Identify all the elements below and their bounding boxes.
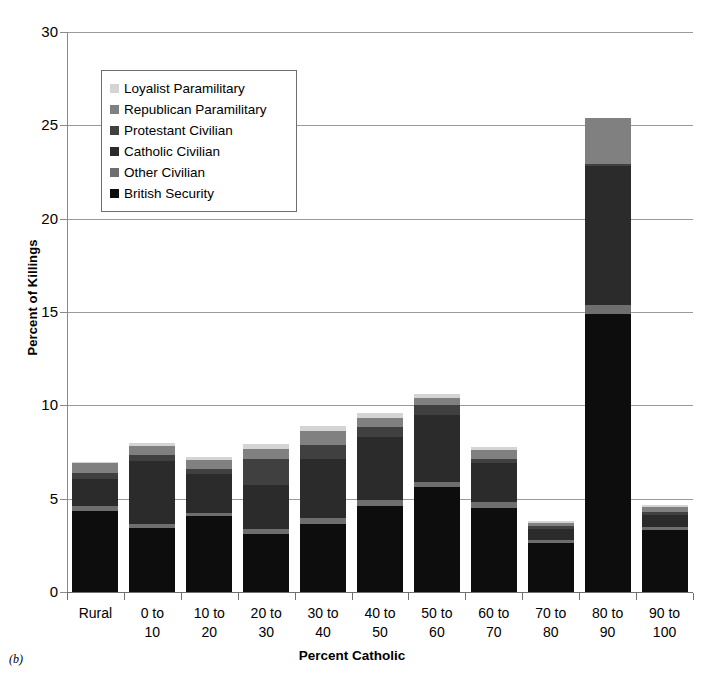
bar-segment[interactable] bbox=[300, 431, 346, 445]
x-tick-label: 0 to10 bbox=[124, 604, 181, 642]
bar-segment[interactable] bbox=[72, 506, 118, 511]
bar-group bbox=[585, 32, 631, 592]
bar-segment[interactable] bbox=[528, 540, 574, 543]
stacked-bar[interactable] bbox=[186, 457, 232, 592]
bar-segment[interactable] bbox=[243, 485, 289, 529]
legend-item-catholic[interactable]: Catholic Civilian bbox=[110, 141, 288, 162]
bar-segment[interactable] bbox=[642, 530, 688, 592]
y-tick-label-text: 15 bbox=[24, 304, 58, 319]
bar-segment[interactable] bbox=[72, 473, 118, 480]
bar-segment[interactable] bbox=[414, 487, 460, 592]
bar-segment[interactable] bbox=[357, 437, 403, 500]
bar-segment[interactable] bbox=[186, 469, 232, 475]
stacked-bar[interactable] bbox=[129, 443, 175, 592]
bar-segment[interactable] bbox=[186, 513, 232, 517]
bar-segment[interactable] bbox=[471, 459, 517, 464]
chart-legend: Loyalist ParamilitaryRepublican Paramili… bbox=[101, 70, 297, 212]
legend-item-loyalist[interactable]: Loyalist Paramilitary bbox=[110, 78, 288, 99]
bar-segment[interactable] bbox=[129, 446, 175, 454]
legend-item-republican[interactable]: Republican Paramilitary bbox=[110, 99, 288, 120]
bar-segment[interactable] bbox=[642, 527, 688, 531]
bar-segment[interactable] bbox=[471, 447, 517, 450]
y-tick-label-text: 30 bbox=[24, 24, 58, 39]
bar-segment[interactable] bbox=[528, 543, 574, 592]
bar-segment[interactable] bbox=[528, 521, 574, 523]
bar-segment[interactable] bbox=[243, 459, 289, 485]
bar-segment[interactable] bbox=[642, 515, 688, 527]
bar-segment[interactable] bbox=[300, 459, 346, 518]
stacked-bar[interactable] bbox=[471, 447, 517, 592]
bar-segment[interactable] bbox=[186, 460, 232, 468]
bar-segment[interactable] bbox=[357, 506, 403, 592]
bar-segment[interactable] bbox=[357, 418, 403, 426]
bar-segment[interactable] bbox=[186, 516, 232, 592]
stacked-bar[interactable] bbox=[243, 444, 289, 592]
bar-segment[interactable] bbox=[129, 455, 175, 462]
bar-segment[interactable] bbox=[528, 529, 574, 539]
stacked-bar[interactable] bbox=[414, 394, 460, 592]
y-tick-mark bbox=[60, 592, 67, 593]
x-tick-mark bbox=[238, 593, 239, 600]
bar-segment[interactable] bbox=[357, 427, 403, 437]
bar-segment[interactable] bbox=[243, 444, 289, 450]
bar-segment[interactable] bbox=[186, 474, 232, 512]
bar-segment[interactable] bbox=[471, 463, 517, 502]
x-tick-mark bbox=[181, 593, 182, 600]
stacked-bar[interactable] bbox=[300, 426, 346, 592]
bar-segment[interactable] bbox=[357, 413, 403, 419]
x-tick-mark bbox=[352, 593, 353, 600]
bar-segment[interactable] bbox=[585, 305, 631, 313]
bar-segment[interactable] bbox=[72, 511, 118, 592]
legend-swatch-icon bbox=[110, 84, 119, 93]
bar-group bbox=[528, 32, 574, 592]
bar-segment[interactable] bbox=[129, 443, 175, 447]
stacked-bar[interactable] bbox=[642, 505, 688, 592]
x-tick-label: 60 to70 bbox=[465, 604, 522, 642]
bar-segment[interactable] bbox=[414, 398, 460, 405]
x-tick-mark bbox=[67, 593, 68, 600]
bar-segment[interactable] bbox=[414, 482, 460, 488]
stacked-bar[interactable] bbox=[357, 413, 403, 592]
bar-segment[interactable] bbox=[300, 445, 346, 459]
bar-segment[interactable] bbox=[414, 415, 460, 482]
bar-segment[interactable] bbox=[243, 534, 289, 592]
stacked-bar[interactable] bbox=[72, 462, 118, 592]
x-tick-label: 40 to50 bbox=[352, 604, 409, 642]
stacked-bar[interactable] bbox=[528, 521, 574, 592]
bar-segment[interactable] bbox=[72, 462, 118, 463]
bar-segment[interactable] bbox=[471, 502, 517, 508]
bar-segment[interactable] bbox=[414, 394, 460, 398]
legend-item-label: Protestant Civilian bbox=[124, 124, 233, 138]
bar-segment[interactable] bbox=[300, 524, 346, 592]
bar-segment[interactable] bbox=[471, 508, 517, 592]
bar-segment[interactable] bbox=[585, 166, 631, 305]
x-tick-mark bbox=[579, 593, 580, 600]
bar-segment[interactable] bbox=[129, 461, 175, 524]
legend-item-other[interactable]: Other Civilian bbox=[110, 162, 288, 183]
bar-segment[interactable] bbox=[186, 457, 232, 461]
stacked-bar[interactable] bbox=[585, 118, 631, 592]
bar-segment[interactable] bbox=[243, 529, 289, 535]
bar-segment[interactable] bbox=[585, 314, 631, 592]
bar-segment[interactable] bbox=[585, 118, 631, 164]
bar-segment[interactable] bbox=[72, 479, 118, 506]
y-tick-mark bbox=[60, 32, 67, 33]
bar-segment[interactable] bbox=[300, 518, 346, 524]
bar-segment[interactable] bbox=[642, 505, 688, 507]
bar-segment[interactable] bbox=[528, 526, 574, 530]
bar-segment[interactable] bbox=[357, 500, 403, 507]
bar-segment[interactable] bbox=[129, 524, 175, 528]
bar-segment[interactable] bbox=[585, 164, 631, 167]
bar-segment[interactable] bbox=[300, 426, 346, 432]
bar-segment[interactable] bbox=[414, 405, 460, 414]
bar-segment[interactable] bbox=[72, 463, 118, 472]
x-tick-label: 50 to60 bbox=[408, 604, 465, 642]
legend-item-british[interactable]: British Security bbox=[110, 183, 288, 204]
bar-segment[interactable] bbox=[243, 449, 289, 458]
bar-segment[interactable] bbox=[129, 528, 175, 592]
bar-segment[interactable] bbox=[528, 523, 574, 526]
legend-item-protestant[interactable]: Protestant Civilian bbox=[110, 120, 288, 141]
bar-segment[interactable] bbox=[642, 507, 688, 512]
bar-segment[interactable] bbox=[471, 450, 517, 458]
bar-segment[interactable] bbox=[642, 512, 688, 515]
